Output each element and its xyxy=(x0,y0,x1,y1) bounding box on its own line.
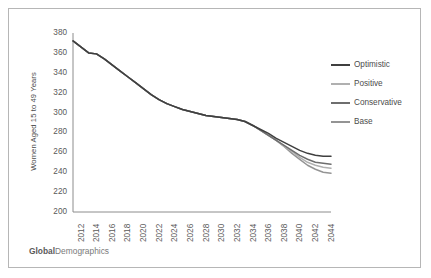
chart-legend: OptimisticPositiveConservativeBase xyxy=(331,55,423,131)
legend-swatch-icon xyxy=(331,121,350,123)
legend-item-optimistic[interactable]: Optimistic xyxy=(331,55,423,74)
chart-plot xyxy=(9,9,420,267)
chart-container: Women Aged 15 to 49 Years 38036034032030… xyxy=(8,8,421,268)
brand-rest: Demographics xyxy=(55,246,109,256)
footer-branding: GlobalDemographics xyxy=(29,246,109,256)
plot-area-wrapper: Women Aged 15 to 49 Years 38036034032030… xyxy=(9,9,420,267)
legend-item-label: Conservative xyxy=(354,98,402,107)
axis-lines xyxy=(73,33,331,212)
brand-bold: Global xyxy=(29,246,55,256)
series-line-optimistic xyxy=(73,41,331,156)
legend-item-label: Optimistic xyxy=(354,60,390,69)
series-line-positive xyxy=(73,41,331,168)
legend-swatch-icon xyxy=(331,102,350,104)
legend-item-base[interactable]: Base xyxy=(331,112,423,131)
legend-swatch-icon xyxy=(331,83,350,85)
legend-item-label: Base xyxy=(354,117,373,126)
legend-item-positive[interactable]: Positive xyxy=(331,74,423,93)
legend-item-label: Positive xyxy=(354,79,383,88)
series-line-base xyxy=(73,41,331,173)
legend-item-conservative[interactable]: Conservative xyxy=(331,93,423,112)
series-lines xyxy=(73,41,331,173)
legend-swatch-icon xyxy=(331,64,350,66)
